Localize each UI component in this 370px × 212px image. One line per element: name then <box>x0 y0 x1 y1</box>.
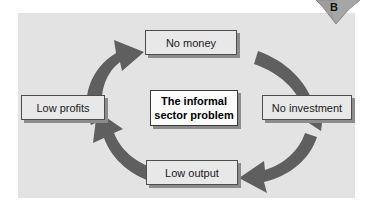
figure-root: No money No investment Low output Low pr… <box>0 0 370 212</box>
arrow-no-investment-to-low-output <box>239 133 317 193</box>
node-no-investment: No investment <box>262 95 352 120</box>
corner-pennant: B <box>316 0 360 24</box>
node-low-output-label: Low output <box>165 167 219 179</box>
corner-pennant-label: B <box>325 0 343 15</box>
node-no-money: No money <box>145 30 237 55</box>
node-no-money-label: No money <box>166 37 216 49</box>
center-title-line-2: sector problem <box>154 108 233 122</box>
node-low-profits: Low profits <box>21 95 105 120</box>
node-no-investment-label: No investment <box>272 102 342 114</box>
node-low-profits-label: Low profits <box>36 102 89 114</box>
center-title-line-1: The informal <box>161 94 227 108</box>
center-title-box: The informal sector problem <box>150 90 238 126</box>
node-low-output: Low output <box>146 160 238 185</box>
